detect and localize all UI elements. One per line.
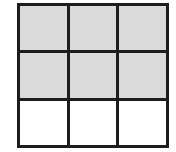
figure-canvas [0,0,176,152]
grid-cell-r2c1[interactable] [19,52,69,99]
grid-cell-r3c1[interactable] [19,99,69,146]
grid-row [19,99,168,146]
grid-cell-r3c2[interactable] [68,99,118,146]
grid-cell-r1c3[interactable] [118,5,168,52]
grid-row [19,5,168,52]
grid-cell-r2c3[interactable] [118,52,168,99]
three-by-three-grid [17,3,169,148]
grid-cell-r2c2[interactable] [68,52,118,99]
grid-row [19,52,168,99]
grid-cell-r3c3[interactable] [118,99,168,146]
grid-cell-r1c2[interactable] [68,5,118,52]
grid-cell-r1c1[interactable] [19,5,69,52]
grid-body [19,5,168,147]
